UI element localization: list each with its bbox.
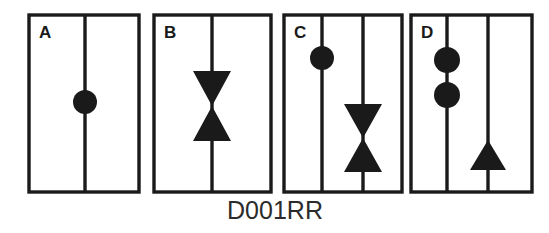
figure-caption: D001RR xyxy=(227,196,323,224)
panel-d-filled-circle-upper xyxy=(434,47,460,73)
diagram-canvas: ABCDD001RR xyxy=(0,0,549,233)
panel-label-d: D xyxy=(421,23,433,42)
panel-c-filled-circle xyxy=(310,46,334,70)
panel-a-filled-circle xyxy=(73,90,97,114)
panel-b: B xyxy=(154,15,271,192)
panel-c: C xyxy=(284,15,402,192)
panel-label-c: C xyxy=(294,23,306,42)
panel-d-filled-circle-lower xyxy=(434,82,460,108)
figure-container: ABCDD001RR xyxy=(0,0,549,233)
panel-label-a: A xyxy=(39,23,51,42)
panel-a: A xyxy=(29,15,139,192)
panel-d: D xyxy=(411,15,532,192)
panel-d-triangle-up xyxy=(470,140,506,170)
panel-label-b: B xyxy=(164,23,176,42)
